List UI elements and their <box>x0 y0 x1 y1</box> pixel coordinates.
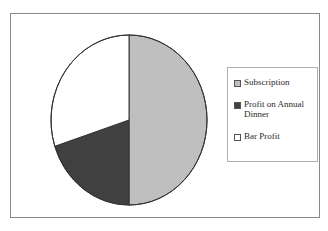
pie-slices <box>51 35 207 205</box>
legend-item-bar-profit[interactable]: Bar Profit <box>234 131 312 142</box>
pie-chart-svg <box>41 30 221 210</box>
legend-swatch-bar-profit <box>234 134 241 141</box>
legend-swatch-profit-on-annual-dinner <box>234 102 241 109</box>
chart-frame: Subscription Profit on Annual Dinner Bar… <box>10 13 320 218</box>
legend-label-bar-profit: Bar Profit <box>244 131 280 142</box>
legend-swatch-subscription <box>234 80 241 87</box>
pie-chart <box>41 30 221 210</box>
legend-item-subscription[interactable]: Subscription <box>234 77 312 88</box>
pie-slice-subscription[interactable] <box>129 35 207 205</box>
legend-item-profit-on-annual-dinner[interactable]: Profit on Annual Dinner <box>234 99 312 120</box>
legend-label-subscription: Subscription <box>244 77 290 88</box>
legend-label-profit-on-annual-dinner: Profit on Annual Dinner <box>244 99 312 120</box>
chart-legend: Subscription Profit on Annual Dinner Bar… <box>227 67 318 162</box>
